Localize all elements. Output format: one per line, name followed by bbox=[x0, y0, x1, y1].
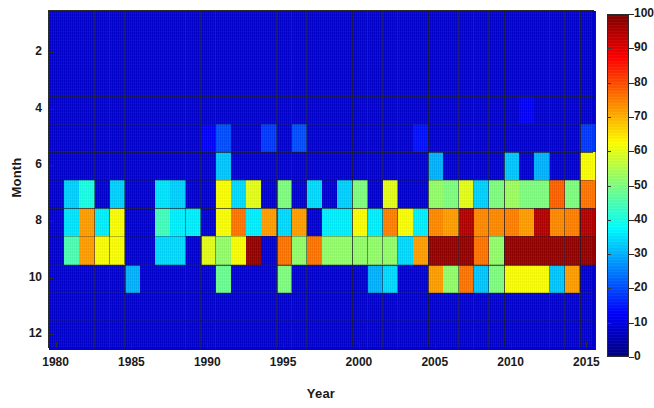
grid-row-line bbox=[49, 67, 593, 68]
heatmap-cell bbox=[489, 11, 505, 40]
heatmap-cell bbox=[565, 39, 581, 68]
heatmap-cell bbox=[322, 67, 338, 96]
heatmap-cell bbox=[428, 293, 444, 322]
heatmap-cell bbox=[352, 11, 368, 40]
heatmap-cell bbox=[125, 67, 141, 96]
heatmap-cell bbox=[383, 67, 399, 96]
heatmap-cell bbox=[368, 39, 384, 68]
colorbar-tick-mark bbox=[629, 151, 634, 152]
heatmap-cell bbox=[216, 39, 232, 68]
y-tick-mark bbox=[48, 109, 54, 110]
grid-col-line bbox=[580, 11, 581, 347]
x-axis-label: Year bbox=[48, 386, 594, 401]
heatmap-cell bbox=[352, 208, 368, 237]
heatmap-cell bbox=[49, 293, 65, 322]
heatmap-cell bbox=[155, 293, 171, 322]
heatmap-cell bbox=[398, 11, 414, 40]
heatmap-cell bbox=[261, 265, 277, 294]
heatmap-cell bbox=[383, 96, 399, 125]
y-tick-mark bbox=[48, 334, 54, 335]
heatmap-cell bbox=[337, 293, 353, 322]
colorbar-tick-inner bbox=[607, 48, 611, 49]
x-tick-mark bbox=[435, 342, 436, 348]
heatmap-cell bbox=[322, 321, 338, 350]
heatmap-cell bbox=[170, 321, 186, 350]
colorbar-tick-mark bbox=[629, 186, 634, 187]
heatmap-cell bbox=[292, 180, 308, 209]
heatmap-cell bbox=[443, 96, 459, 125]
heatmap-cell bbox=[231, 39, 247, 68]
y-tick-mark bbox=[48, 165, 54, 166]
heatmap-cell bbox=[459, 180, 475, 209]
heatmap-cell bbox=[125, 208, 141, 237]
grid-row-line bbox=[49, 124, 593, 125]
heatmap-cell bbox=[550, 265, 566, 294]
colorbar-tick-mark bbox=[629, 288, 634, 289]
heatmap-cell bbox=[110, 208, 126, 237]
heatmap-cell bbox=[489, 152, 505, 181]
heatmap-cell bbox=[292, 208, 308, 237]
x-tick-label: 1985 bbox=[110, 355, 152, 369]
heatmap-cell bbox=[140, 67, 156, 96]
y-tick-label: 10 bbox=[16, 270, 42, 284]
heatmap-cell bbox=[170, 208, 186, 237]
colorbar-tick-mark bbox=[629, 357, 634, 358]
heatmap-cell bbox=[383, 236, 399, 265]
heatmap-cells bbox=[49, 11, 593, 347]
heatmap-cell bbox=[246, 236, 262, 265]
heatmap-cell bbox=[216, 67, 232, 96]
heatmap-cell bbox=[155, 11, 171, 40]
grid-col-line bbox=[352, 11, 353, 347]
heatmap-cell bbox=[459, 265, 475, 294]
heatmap-cell bbox=[428, 236, 444, 265]
colorbar-tick-mark bbox=[629, 254, 634, 255]
heatmap-cell bbox=[368, 152, 384, 181]
y-tick-label: 12 bbox=[16, 326, 42, 340]
y-tick-label: 8 bbox=[16, 213, 42, 227]
heatmap-cell bbox=[550, 124, 566, 153]
heatmap-cell bbox=[519, 321, 535, 350]
heatmap-cell bbox=[49, 265, 65, 294]
heatmap-cell bbox=[155, 236, 171, 265]
heatmap-cell bbox=[565, 293, 581, 322]
heatmap-cell bbox=[155, 124, 171, 153]
heatmap-cell bbox=[337, 67, 353, 96]
colorbar-tick-label: 80 bbox=[634, 75, 654, 89]
heatmap-cell bbox=[519, 96, 535, 125]
heatmap-cell bbox=[64, 180, 80, 209]
x-tick-label: 2010 bbox=[490, 355, 532, 369]
heatmap-cell bbox=[580, 293, 596, 322]
heatmap-cell bbox=[368, 321, 384, 350]
colorbar-tick-mark bbox=[629, 117, 634, 118]
heatmap-cell bbox=[155, 208, 171, 237]
heatmap-cell bbox=[474, 67, 490, 96]
grid-row-line bbox=[49, 236, 593, 237]
grid-col-line bbox=[277, 11, 278, 347]
heatmap-cell bbox=[170, 11, 186, 40]
heatmap-cell bbox=[504, 11, 520, 40]
heatmap-cell bbox=[64, 293, 80, 322]
heatmap-cell bbox=[459, 11, 475, 40]
heatmap-cell bbox=[519, 39, 535, 68]
heatmap-cell bbox=[231, 96, 247, 125]
heatmap-cell bbox=[140, 293, 156, 322]
heatmap-cell bbox=[534, 11, 550, 40]
heatmap-cell bbox=[413, 208, 429, 237]
heatmap-cell bbox=[352, 67, 368, 96]
heatmap-cell bbox=[246, 11, 262, 40]
heatmap-cell bbox=[216, 208, 232, 237]
heatmap-cell bbox=[246, 265, 262, 294]
heatmap-cell bbox=[231, 321, 247, 350]
y-tick-mark bbox=[48, 278, 54, 279]
heatmap-cell bbox=[307, 293, 323, 322]
x-tick-label: 1995 bbox=[262, 355, 304, 369]
colorbar-tick-inner bbox=[607, 151, 611, 152]
heatmap-cell bbox=[95, 96, 111, 125]
heatmap-cell bbox=[489, 39, 505, 68]
colorbar-tick-label: 90 bbox=[634, 40, 654, 54]
colorbar-tick-mark bbox=[629, 14, 634, 15]
heatmap-cell bbox=[216, 293, 232, 322]
heatmap-cell bbox=[474, 293, 490, 322]
x-tick-label: 1980 bbox=[35, 355, 77, 369]
x-tick-mark bbox=[511, 342, 512, 348]
